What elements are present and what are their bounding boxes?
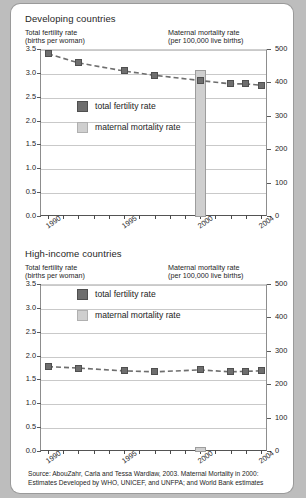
y-tick-label: 3.0 — [15, 68, 36, 77]
chart-title-top: Developing countries — [25, 13, 116, 24]
y2-tick-label: 500 — [275, 279, 287, 288]
data-point-marker — [197, 366, 204, 373]
data-point-marker — [45, 363, 52, 370]
legend-label-mortality-top: maternal mortality rate — [95, 122, 181, 132]
y-tick-label: 3.5 — [15, 279, 36, 288]
source-note-line1: Source: AbouZahr, Carla and Tessa Wardla… — [28, 470, 259, 479]
plot-area-top — [40, 49, 267, 216]
y-tick-label: 1.0 — [15, 163, 36, 172]
figure-panel: Developing countries Total fertility rat… — [11, 4, 293, 493]
legend-label-fertility-bottom: total fertility rate — [95, 289, 156, 299]
data-point-marker — [197, 77, 204, 84]
y2-tick-mark — [267, 384, 271, 385]
y-tick-mark — [37, 451, 41, 452]
data-point-marker — [227, 80, 234, 87]
legend-swatch-mortality-top — [77, 122, 88, 133]
legend-swatch-fertility-bottom — [77, 289, 88, 300]
figure-background: Developing countries Total fertility rat… — [0, 0, 306, 498]
y-tick-label: 0.0 — [15, 211, 36, 220]
y2-tick-mark — [267, 149, 271, 150]
y2-tick-label: 300 — [275, 346, 287, 355]
data-point-marker — [258, 367, 265, 374]
y2-tick-label: 500 — [275, 44, 287, 53]
right-axis-caption-bottom-line2: (per 100,000 live births) — [168, 272, 244, 280]
y2-tick-mark — [267, 116, 271, 117]
y-tick-mark — [37, 144, 41, 145]
y-tick-mark — [37, 97, 41, 98]
y-tick-label: 1.5 — [15, 139, 36, 148]
y-tick-mark — [37, 308, 41, 309]
data-point-marker — [121, 367, 128, 374]
y-tick-mark — [37, 379, 41, 380]
y2-tick-label: 200 — [275, 379, 287, 388]
right-axis-caption-top-line2: (per 100,000 live births) — [168, 37, 244, 45]
y2-tick-label: 200 — [275, 144, 287, 153]
y-tick-label: 0.5 — [15, 422, 36, 431]
y-tick-label: 0.0 — [15, 446, 36, 455]
source-note-line2: Estimates Developed by WHO, UNICEF, and … — [28, 479, 263, 488]
y-tick-mark — [37, 192, 41, 193]
y-tick-mark — [37, 284, 41, 285]
y-tick-mark — [37, 216, 41, 217]
y-tick-label: 1.5 — [15, 374, 36, 383]
y2-tick-mark — [267, 418, 271, 419]
data-point-marker — [242, 368, 249, 375]
y-tick-label: 0.5 — [15, 187, 36, 196]
y-tick-label: 2.5 — [15, 92, 36, 101]
y-tick-mark — [37, 49, 41, 50]
y-tick-label: 3.5 — [15, 44, 36, 53]
y2-tick-mark — [267, 183, 271, 184]
data-point-marker — [151, 72, 158, 79]
data-point-marker — [258, 82, 265, 89]
y-tick-mark — [37, 403, 41, 404]
y-tick-mark — [37, 121, 41, 122]
y-tick-mark — [37, 332, 41, 333]
y2-tick-label: 0 — [275, 446, 279, 455]
legend-swatch-fertility-top — [77, 101, 88, 112]
y2-tick-mark — [267, 351, 271, 352]
y2-tick-label: 100 — [275, 178, 287, 187]
data-point-marker — [227, 368, 234, 375]
data-point-marker — [242, 80, 249, 87]
data-point-marker — [45, 50, 52, 57]
legend-label-fertility-top: total fertility rate — [95, 101, 156, 111]
y2-tick-label: 400 — [275, 77, 287, 86]
y-tick-label: 2.0 — [15, 116, 36, 125]
data-point-marker — [75, 59, 82, 66]
y-tick-mark — [37, 427, 41, 428]
y-tick-label: 3.0 — [15, 303, 36, 312]
y2-tick-label: 0 — [275, 211, 279, 220]
chart-title-bottom: High-income countries — [25, 248, 122, 259]
y2-tick-mark — [267, 317, 271, 318]
y2-tick-mark — [267, 49, 271, 50]
y2-tick-label: 400 — [275, 312, 287, 321]
data-point-marker — [121, 67, 128, 74]
y2-tick-mark — [267, 82, 271, 83]
data-point-marker — [151, 368, 158, 375]
y-tick-mark — [37, 356, 41, 357]
data-point-marker — [75, 365, 82, 372]
y-tick-label: 2.0 — [15, 351, 36, 360]
y-tick-mark — [37, 73, 41, 74]
y2-tick-label: 300 — [275, 111, 287, 120]
y2-tick-label: 100 — [275, 413, 287, 422]
y-tick-label: 1.0 — [15, 398, 36, 407]
legend-label-mortality-bottom: maternal mortality rate — [95, 310, 181, 320]
y-tick-mark — [37, 168, 41, 169]
y-tick-label: 2.5 — [15, 327, 36, 336]
legend-swatch-mortality-bottom — [77, 310, 88, 321]
y2-tick-mark — [267, 284, 271, 285]
